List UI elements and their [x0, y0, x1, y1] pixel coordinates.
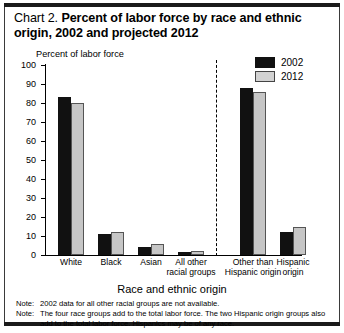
- y-axis-tick-label: 60: [26, 137, 36, 146]
- bar-pair: [171, 65, 211, 255]
- legend-swatch-2002: [255, 57, 275, 68]
- bar-2012: [111, 232, 124, 255]
- y-axis-tick-label: 10: [26, 232, 36, 241]
- bar-pair: [233, 65, 273, 255]
- category-label-line: origin: [251, 267, 335, 277]
- bar-2002: [98, 234, 111, 255]
- bar-2012: [151, 244, 164, 255]
- y-axis-tick-label: 50: [26, 156, 36, 165]
- y-axis-tick-label: 80: [26, 99, 36, 108]
- bar-2002: [178, 252, 191, 255]
- chart-legend: 2002 2012: [255, 57, 335, 85]
- legend-item-2002: 2002: [255, 57, 335, 68]
- bar-group: Black: [91, 65, 131, 255]
- chart-title: Chart 2. Percent of labor force by race …: [14, 11, 334, 40]
- group-divider: [216, 60, 217, 256]
- note-text: The four race groups add to the total la…: [40, 309, 332, 328]
- y-axis-tick-label: 70: [26, 118, 36, 127]
- bar-group: White: [51, 65, 91, 255]
- bar-group: Hispanicorigin: [273, 65, 313, 255]
- bar-groups: WhiteBlackAsianAll otherracial groupsOth…: [45, 65, 293, 255]
- y-axis-tick-label: 90: [26, 80, 36, 89]
- note-label: Note:: [16, 299, 40, 308]
- y-axis-tick: 0: [41, 255, 45, 256]
- bar-pair: [273, 65, 313, 255]
- chart-title-prefix: Chart 2.: [14, 11, 58, 25]
- bar-2002: [240, 88, 253, 255]
- x-axis-line: [45, 255, 302, 256]
- y-axis-tick-label: 20: [26, 213, 36, 222]
- plot-area: 0102030405060708090100 WhiteBlackAsianAl…: [45, 65, 293, 255]
- bar-2012: [293, 227, 306, 256]
- bar-2012: [191, 251, 204, 255]
- legend-swatch-2012: [255, 71, 275, 82]
- bar-group: Asian: [131, 65, 171, 255]
- bar-2002: [58, 97, 71, 255]
- note-item: Note: 2002 data for all other racial gro…: [16, 299, 332, 308]
- bar-pair: [51, 65, 91, 255]
- note-text: 2002 data for all other racial groups ar…: [40, 299, 332, 308]
- y-axis-tick-label: 30: [26, 194, 36, 203]
- category-label-line: Hispanic: [251, 257, 335, 267]
- bar-2002: [138, 247, 151, 255]
- chart-figure: Chart 2. Percent of labor force by race …: [0, 0, 344, 333]
- bar-2012: [253, 92, 266, 255]
- note-label: Note:: [16, 309, 40, 328]
- bar-group: Other thanHispanic origin: [233, 65, 273, 255]
- legend-label-2012: 2012: [281, 71, 303, 82]
- x-axis-title: Race and ethnic origin: [0, 283, 344, 295]
- bar-2012: [71, 103, 84, 255]
- bar-pair: [131, 65, 171, 255]
- bar-group: All otherracial groups: [171, 65, 211, 255]
- legend-label-2002: 2002: [281, 57, 303, 68]
- legend-item-2012: 2012: [255, 71, 335, 82]
- bar-pair: [91, 65, 131, 255]
- y-axis-tick-label: 40: [26, 175, 36, 184]
- note-item: Note: The four race groups add to the to…: [16, 309, 332, 328]
- y-axis-title: Percent of labor force: [36, 49, 124, 59]
- y-axis-tick-label: 100: [21, 61, 36, 70]
- chart-notes: Note: 2002 data for all other racial gro…: [16, 299, 332, 329]
- bar-2002: [280, 232, 293, 255]
- x-axis-category-label: Hispanicorigin: [251, 257, 335, 277]
- chart-title-main: Percent of labor force by race and ethni…: [14, 11, 302, 40]
